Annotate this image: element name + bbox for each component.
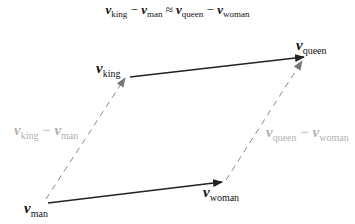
arrow-man-to-woman [48, 182, 222, 203]
diff-left-v1: v [14, 122, 21, 138]
diff-left-s1: king [21, 130, 39, 141]
label-woman-sub: woman [210, 192, 239, 203]
label-v-king: vking [96, 60, 120, 79]
arrow-king-to-queen [130, 57, 304, 77]
diff-left-op: − [42, 122, 50, 138]
label-queen-sub: queen [303, 45, 327, 56]
vector-diagram [0, 0, 355, 224]
label-man-sub: man [31, 208, 48, 219]
diff-right-s1: queen [273, 132, 297, 143]
diff-left-s2: man [61, 130, 78, 141]
dashed-arrow-woman-to-queen [226, 61, 302, 180]
label-v-man: vman [24, 200, 48, 219]
label-queen-minus-woman: vqueen − vwoman [266, 124, 349, 143]
label-queen-v: v [296, 37, 303, 53]
label-king-v: v [96, 60, 103, 76]
diff-right-s2: woman [319, 132, 348, 143]
diff-right-op: − [300, 124, 308, 140]
diff-right-v1: v [266, 124, 273, 140]
label-woman-v: v [203, 184, 210, 200]
label-v-queen: vqueen [296, 37, 327, 56]
label-man-v: v [24, 200, 31, 216]
label-king-sub: king [103, 68, 121, 79]
label-v-woman: vwoman [203, 184, 239, 203]
label-king-minus-man: vking − vman [14, 122, 78, 141]
